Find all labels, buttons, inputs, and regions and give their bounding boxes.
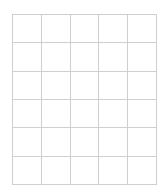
grid-cell (99, 128, 128, 156)
grid-cell (13, 157, 42, 185)
canvas (0, 0, 164, 194)
grid-cell (71, 43, 100, 71)
grid-cell (128, 72, 157, 100)
grid-cell (42, 157, 71, 185)
grid-cell (13, 72, 42, 100)
grid-cell (71, 128, 100, 156)
grid-cell (99, 100, 128, 128)
grid-cell (42, 100, 71, 128)
grid-cell (71, 100, 100, 128)
grid-cell (71, 15, 100, 43)
grid-cell (99, 72, 128, 100)
grid-cell (71, 72, 100, 100)
grid-cell (128, 43, 157, 71)
grid-cell (128, 128, 157, 156)
grid-cell (42, 128, 71, 156)
empty-grid (12, 14, 157, 185)
grid-cell (13, 15, 42, 43)
grid-cell (42, 43, 71, 71)
grid-cell (99, 15, 128, 43)
grid-cell (13, 100, 42, 128)
grid-cell (42, 15, 71, 43)
grid-cell (128, 100, 157, 128)
grid-cell (13, 128, 42, 156)
grid-cell (99, 157, 128, 185)
grid-cell (13, 43, 42, 71)
grid-cell (128, 157, 157, 185)
grid-cell (42, 72, 71, 100)
grid-cell (71, 157, 100, 185)
grid-cell (99, 43, 128, 71)
grid-cell (128, 15, 157, 43)
